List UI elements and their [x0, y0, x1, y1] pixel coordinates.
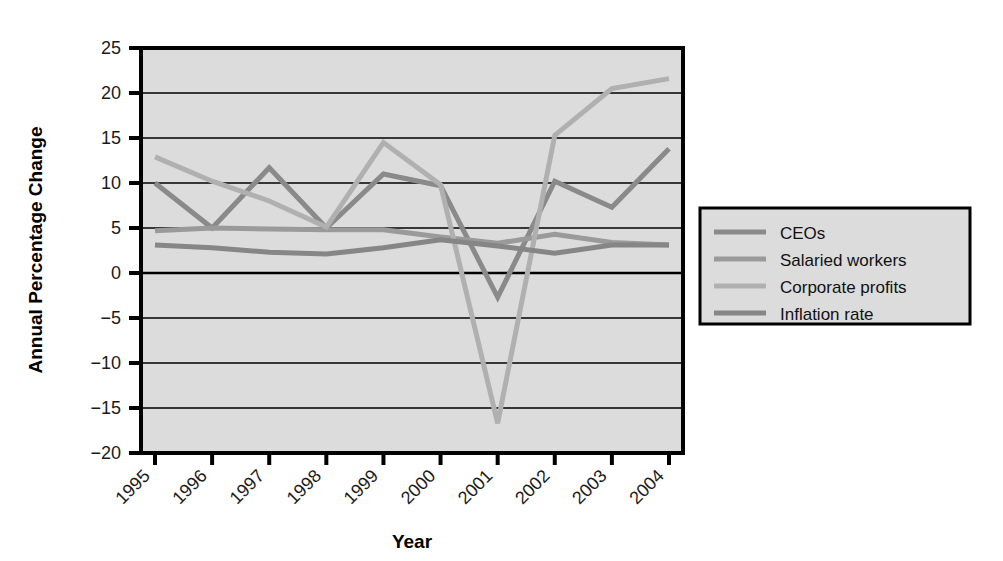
- x-tick-label: 1995: [111, 466, 153, 508]
- x-tick-label: 2001: [454, 466, 496, 508]
- y-tick-label: −20: [90, 443, 121, 463]
- y-tick-label: 10: [101, 173, 121, 193]
- x-tick-label: 1998: [283, 466, 325, 508]
- y-tick-label: 25: [101, 38, 121, 58]
- x-tick-label: 2002: [511, 466, 553, 508]
- x-axis-tick-labels: 1995199619971998199920002001200220032004: [111, 466, 667, 508]
- y-tick-label: −5: [100, 308, 121, 328]
- y-tick-label: 15: [101, 128, 121, 148]
- y-tick-label: −10: [90, 353, 121, 373]
- x-tick-label: 2000: [397, 466, 439, 508]
- y-tick-label: 0: [111, 263, 121, 283]
- legend-label-corporate-profits: Corporate profits: [780, 278, 907, 297]
- y-tick-label: 20: [101, 83, 121, 103]
- x-tick-label: 1997: [226, 466, 268, 508]
- line-chart: −20−15−10−50510152025 199519961997199819…: [0, 0, 1003, 561]
- legend-label-ceos: CEOs: [780, 224, 825, 243]
- y-axis-title: Annual Percentage Change: [25, 126, 46, 373]
- y-axis-tick-labels: −20−15−10−50510152025: [90, 38, 121, 463]
- x-tick-label: 1996: [168, 466, 210, 508]
- y-tick-label: 5: [111, 218, 121, 238]
- y-tick-label: −15: [90, 398, 121, 418]
- x-tick-label: 2004: [625, 466, 667, 508]
- chart-figure: −20−15−10−50510152025 199519961997199819…: [0, 0, 1003, 561]
- legend-label-salaried-workers: Salaried workers: [780, 251, 907, 270]
- x-tick-label: 1999: [340, 466, 382, 508]
- x-tick-label: 2003: [568, 466, 610, 508]
- x-axis-title: Year: [392, 531, 433, 552]
- legend-label-inflation-rate: Inflation rate: [780, 305, 874, 324]
- legend: CEOsSalaried workersCorporate profitsInf…: [700, 208, 970, 324]
